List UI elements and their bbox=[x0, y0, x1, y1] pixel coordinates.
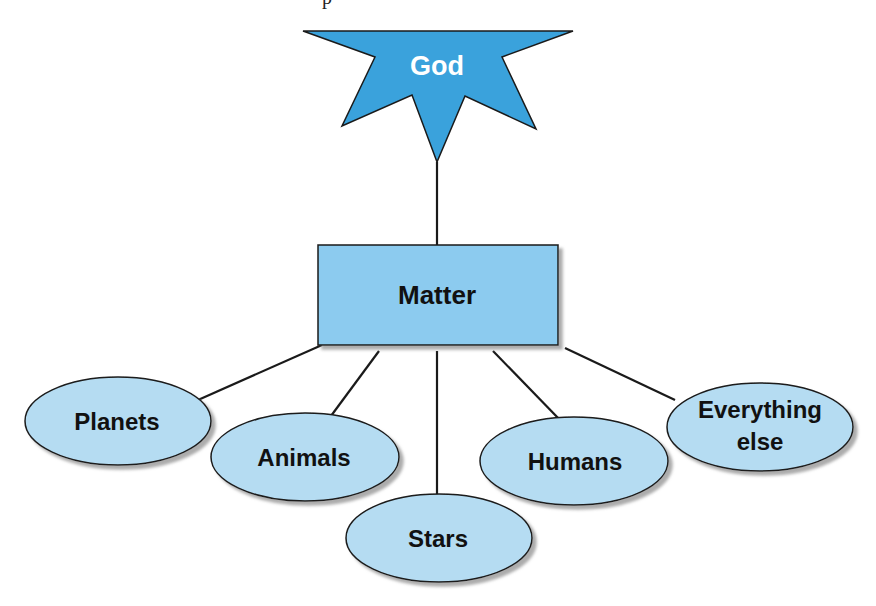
everything-else-node: Everything else bbox=[667, 383, 853, 471]
god-label: God bbox=[410, 51, 464, 81]
child-nodes: Planets Animals Stars Humans Everything … bbox=[25, 377, 853, 582]
connector-matter-everything-else bbox=[565, 348, 675, 400]
everything-else-label-line1: Everything bbox=[698, 396, 822, 423]
animals-node: Animals bbox=[211, 413, 399, 501]
connector-matter-planets bbox=[198, 345, 322, 400]
god-node: God bbox=[303, 31, 573, 162]
humans-node: Humans bbox=[480, 417, 668, 505]
animals-label: Animals bbox=[257, 444, 350, 471]
connector-matter-humans bbox=[493, 351, 560, 420]
planets-node: Planets bbox=[25, 377, 211, 465]
planets-label: Planets bbox=[74, 408, 159, 435]
connector-matter-animals bbox=[328, 351, 379, 420]
stars-node: Stars bbox=[346, 494, 532, 582]
matter-label: Matter bbox=[398, 280, 476, 310]
hierarchy-diagram: God Matter Planets Animals Stars Humans … bbox=[0, 0, 876, 606]
stars-label: Stars bbox=[408, 525, 468, 552]
humans-label: Humans bbox=[528, 448, 623, 475]
everything-else-label-line2: else bbox=[737, 428, 784, 455]
